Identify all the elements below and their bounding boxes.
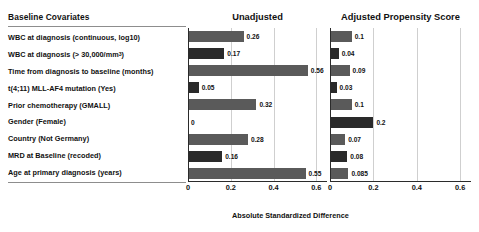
- x-tick-label: 0: [328, 183, 332, 192]
- plot-area-unadjusted: 0.260.170.560.050.3200.280.160.55: [188, 28, 327, 182]
- bar-value-label: 0.08: [350, 153, 363, 160]
- covariate-label: Country (Not Germany): [8, 134, 89, 143]
- bar: [188, 31, 244, 42]
- covariate-label: t(4;11) MLL-AF4 mutation (Yes): [8, 84, 116, 93]
- bar: [188, 134, 248, 145]
- covariate-row: t(4;11) MLL-AF4 mutation (Yes): [8, 80, 186, 97]
- bar-row: 0.05: [188, 79, 327, 96]
- bar: [330, 31, 352, 42]
- bar: [188, 65, 308, 76]
- bar-value-label: 0.09: [353, 67, 366, 74]
- covariate-row: WBC at diagnosis (continuous, log10): [8, 29, 186, 46]
- bar: [330, 151, 347, 162]
- bar-value-label: 0.55: [309, 170, 322, 177]
- plot-area-adjusted: 0.10.040.090.030.10.20.070.080.085: [330, 28, 471, 182]
- bar-row: 0.17: [188, 45, 327, 62]
- bar-group-unadjusted: 0.260.170.560.050.3200.280.160.55: [188, 28, 327, 182]
- bar: [330, 117, 373, 128]
- covariate-label: WBC at diagnosis (continuous, log10): [8, 33, 140, 42]
- covariate-row: Age at primary diagnosis (years): [8, 164, 186, 181]
- bar-value-label: 0.26: [247, 33, 260, 40]
- covariate-row: Time from diagnosis to baseline (months): [8, 63, 186, 80]
- covariate-label: Time from diagnosis to baseline (months): [8, 67, 153, 76]
- covariate-label: Gender (Female): [8, 117, 66, 126]
- bar-row: 0.16: [188, 148, 327, 165]
- panel-adjusted: Adjusted Propensity Score 0.10.040.090.0…: [330, 10, 471, 210]
- bar-value-label: 0.2: [376, 119, 385, 126]
- covariate-row: Gender (Female): [8, 113, 186, 130]
- bar: [188, 168, 306, 179]
- bar-row: 0.28: [188, 131, 327, 148]
- bar-value-label: 0.32: [259, 101, 272, 108]
- bar-value-label: 0.56: [311, 67, 324, 74]
- bar-value-label: 0.05: [202, 84, 215, 91]
- covariate-row: WBC at diagnosis (> 30,000/mm3): [8, 46, 186, 63]
- bar-row: 0.56: [188, 62, 327, 79]
- bar-value-label: 0.07: [348, 136, 361, 143]
- bar: [330, 65, 350, 76]
- bar-value-label: 0.16: [225, 153, 238, 160]
- covariate-label: Age at primary diagnosis (years): [8, 168, 122, 177]
- covariate-label: Prior chemotherapy (GMALL): [8, 101, 110, 110]
- bar-row: 0.09: [330, 62, 471, 79]
- bar-row: 0.07: [330, 131, 471, 148]
- covariate-row: Country (Not Germany): [8, 130, 186, 147]
- bar-row: 0.08: [330, 148, 471, 165]
- bar-value-label: 0.28: [251, 136, 264, 143]
- bar-row: 0.1: [330, 28, 471, 45]
- panel-title-unadjusted: Unadjusted: [188, 10, 327, 26]
- bar: [330, 168, 348, 179]
- bar-row: 0.2: [330, 114, 471, 131]
- x-tick-label: 0.2: [368, 183, 378, 192]
- bar-value-label: 0.1: [355, 101, 364, 108]
- panel-title-adjusted: Adjusted Propensity Score: [330, 10, 471, 26]
- bar-value-label: 0.085: [351, 170, 368, 177]
- bar: [330, 48, 339, 59]
- bar-row: 0.26: [188, 28, 327, 45]
- covariates-header: Baseline Covariates: [8, 10, 186, 26]
- bar-row: 0.085: [330, 165, 471, 182]
- header-divider: [8, 26, 186, 27]
- bar: [330, 134, 345, 145]
- x-axis-ticks-unadjusted: 00.20.40.6: [188, 182, 327, 196]
- x-axis-title: Absolute Standardized Difference: [232, 211, 412, 220]
- covariate-label: MRD at Baseline (recoded): [8, 151, 101, 160]
- bar-row: 0: [188, 114, 327, 131]
- bar-row: 0.04: [330, 45, 471, 62]
- covariate-row: Prior chemotherapy (GMALL): [8, 97, 186, 114]
- bar: [330, 99, 352, 110]
- bar-value-label: 0.17: [227, 50, 240, 57]
- covariate-row: MRD at Baseline (recoded): [8, 147, 186, 164]
- panel-unadjusted: Unadjusted 0.260.170.560.050.3200.280.16…: [188, 10, 327, 210]
- y-axis-line: [330, 28, 331, 182]
- x-tick-label: 0.4: [268, 183, 278, 192]
- x-tick-label: 0.4: [412, 183, 422, 192]
- x-tick-label: 0.6: [311, 183, 321, 192]
- x-axis-ticks-adjusted: 00.20.40.6: [330, 182, 471, 196]
- bar-row: 0.03: [330, 79, 471, 96]
- covariate-label: WBC at diagnosis (> 30,000/mm: [8, 50, 119, 59]
- covariate-row-list: WBC at diagnosis (continuous, log10) WBC…: [8, 29, 186, 181]
- bar: [188, 82, 199, 93]
- x-tick-label: 0: [186, 183, 190, 192]
- bar-value-label: 0.04: [342, 50, 355, 57]
- x-tick-label: 0.6: [455, 183, 465, 192]
- bar-row: 0.55: [188, 165, 327, 182]
- covariate-label-suffix: ): [122, 50, 124, 59]
- bar-row: 0.32: [188, 96, 327, 113]
- bar: [188, 48, 224, 59]
- x-tick-label: 0.2: [226, 183, 236, 192]
- covariate-label-column: Baseline Covariates WBC at diagnosis (co…: [8, 10, 186, 210]
- bar: [188, 99, 256, 110]
- y-axis-line: [188, 28, 189, 182]
- bar-group-adjusted: 0.10.040.090.030.10.20.070.080.085: [330, 28, 471, 182]
- bar-row: 0.1: [330, 96, 471, 113]
- bar-value-label: 0.1: [355, 33, 364, 40]
- bar-value-label: 0.03: [340, 84, 353, 91]
- footer-divider: [8, 182, 186, 183]
- bar-value-label: 0: [191, 119, 195, 126]
- forest-plot-figure: Baseline Covariates WBC at diagnosis (co…: [0, 0, 479, 232]
- bar: [188, 151, 222, 162]
